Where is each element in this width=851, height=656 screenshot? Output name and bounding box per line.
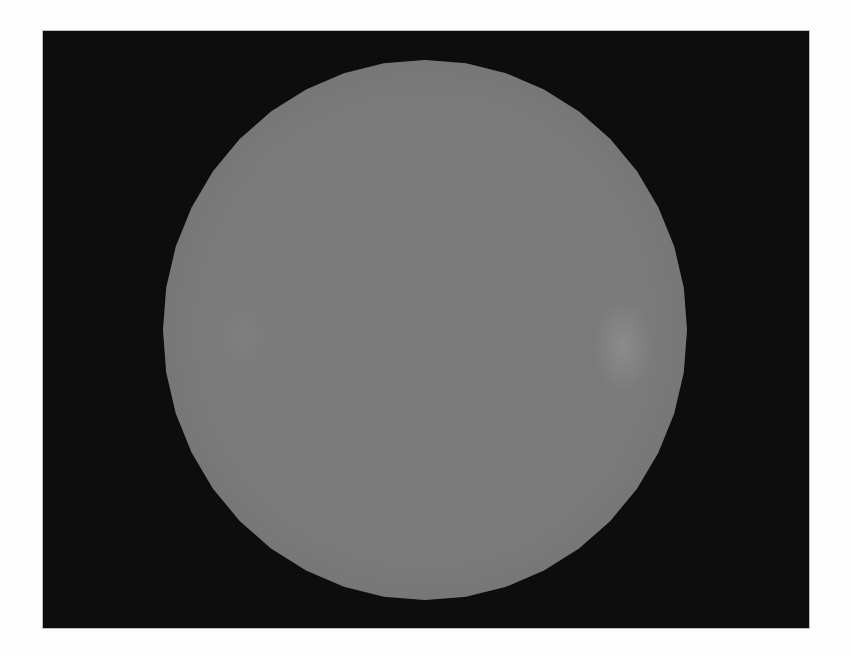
page	[0, 0, 851, 656]
sphere-highlight-right	[593, 298, 653, 394]
render-viewport	[43, 31, 809, 628]
sphere-render	[43, 31, 809, 628]
sphere-highlight-left	[218, 301, 268, 371]
